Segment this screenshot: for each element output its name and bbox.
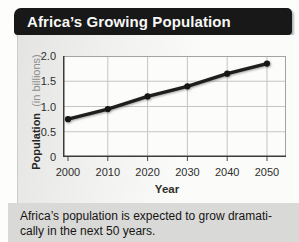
infographic-panel: Africa’s Growing Population 2.01.51.00.5… [0, 0, 299, 242]
data-point [105, 106, 111, 112]
caption-strip: Africa’s population is expected to grow … [8, 203, 299, 242]
caption-line-1: Africa’s population is expected to grow … [20, 209, 291, 224]
y-axis-title: Population (in billions) [30, 52, 44, 172]
data-point [145, 93, 151, 99]
y-axis-title-main: Population [30, 113, 42, 170]
y-axis-title-units: (in billions) [30, 54, 42, 107]
plot-svg [63, 56, 286, 162]
data-point [224, 71, 230, 77]
caption-line-2: cally in the next 50 years. [20, 224, 291, 239]
title-banner: Africa’s Growing Population [14, 8, 292, 35]
chart-title: Africa’s Growing Population [14, 13, 231, 30]
data-point [65, 116, 71, 122]
data-point [264, 60, 270, 66]
x-axis-title: Year [137, 183, 197, 195]
data-point [184, 83, 190, 89]
